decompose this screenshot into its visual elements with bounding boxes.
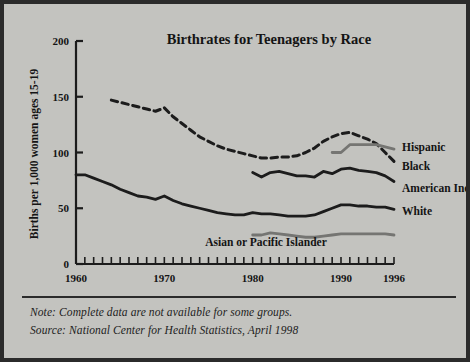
series-label-white: White: [402, 205, 432, 217]
chart-footnotes: Note: Complete data are not available fo…: [8, 296, 470, 362]
birthrates-line-chart: Birthrates for Teenagers by Race Births …: [4, 4, 466, 294]
chart-series-labels: HispanicBlackAmerican IndianWhiteAsian o…: [205, 141, 466, 248]
x-tick-label: 1990: [330, 272, 353, 284]
chart-title: Birthrates for Teenagers by Race: [167, 31, 372, 47]
source-text: Source: National Center for Health Stati…: [30, 322, 470, 340]
y-tick-label: 200: [53, 35, 70, 47]
chart-series-group: [76, 100, 394, 237]
series-label-asian-or-pacific-islander: Asian or Pacific Islander: [205, 236, 327, 248]
y-axis-label: Births per 1,000 women ages 15-19: [28, 69, 41, 240]
y-tick-label: 0: [64, 258, 70, 270]
x-tick-label: 1970: [153, 272, 176, 284]
footnote-divider: [22, 296, 456, 298]
series-line-black: [111, 100, 394, 161]
x-tick-label: 1960: [65, 272, 88, 284]
y-tick-label: 150: [53, 91, 70, 103]
series-label-black: Black: [402, 160, 431, 172]
note-text: Note: Complete data are not available fo…: [30, 304, 470, 322]
y-tick-label: 50: [58, 202, 70, 214]
series-line-white: [76, 175, 394, 216]
x-tick-label: 1996: [383, 272, 406, 284]
chart-figure: Birthrates for Teenagers by Race Births …: [0, 0, 470, 362]
y-tick-label: 100: [53, 147, 70, 159]
series-line-american-indian: [253, 168, 394, 181]
x-tick-label: 1980: [242, 272, 265, 284]
series-label-hispanic: Hispanic: [402, 141, 445, 154]
series-label-american-indian: American Indian: [402, 182, 466, 194]
chart-plot-area: Birthrates for Teenagers by Race Births …: [4, 4, 466, 294]
